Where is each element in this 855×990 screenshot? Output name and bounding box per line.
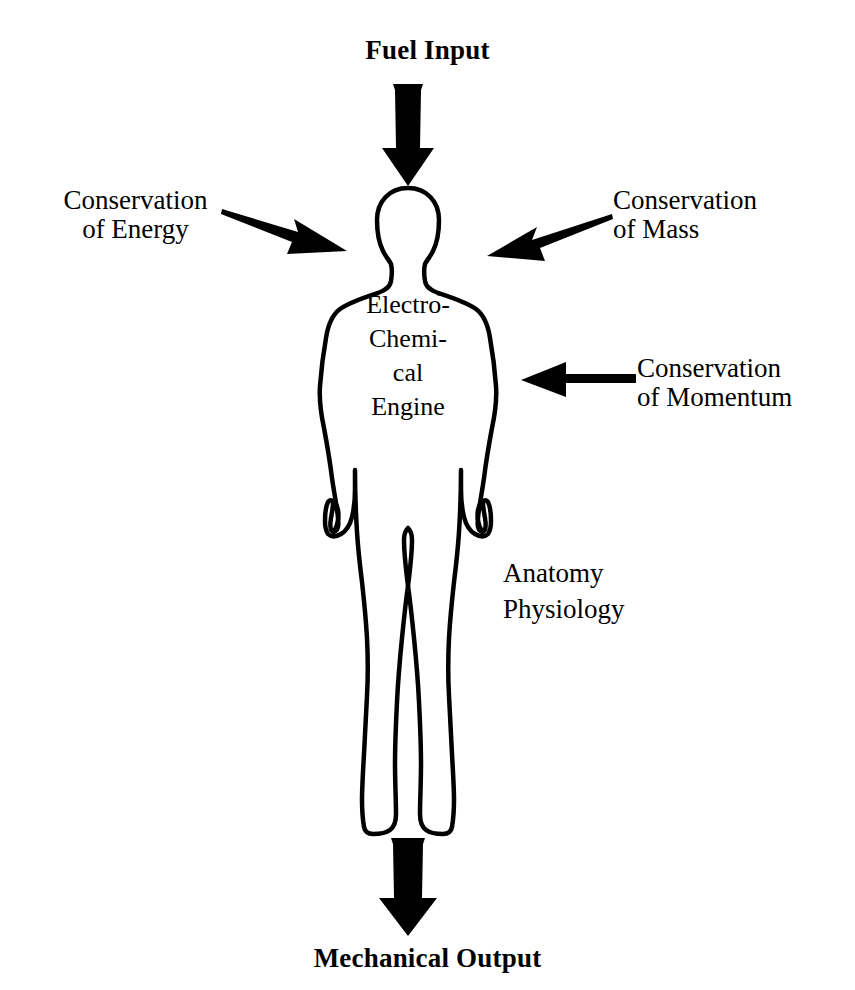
- conservation-of-mass-label: Conservation of Mass: [613, 186, 841, 244]
- electro-chemical-engine-label: Electro- Chemi- cal Engine: [334, 288, 482, 424]
- fuel-input-arrow: [382, 84, 434, 186]
- fuel-input-title: Fuel Input: [0, 36, 855, 65]
- mechanical-output-arrow: [379, 838, 437, 936]
- anatomy-physiology-label: Anatomy Physiology: [503, 556, 703, 627]
- conservation-of-energy-label: Conservation of Energy: [28, 186, 243, 244]
- conservation-of-mass-arrow: [487, 214, 613, 261]
- human-body-outline: [320, 188, 497, 834]
- conservation-of-momentum-label: Conservation of Momentum: [637, 354, 852, 412]
- energy-flow-diagram: Fuel Input Conservation of Energy Conser…: [0, 0, 855, 990]
- diagram-canvas: [0, 0, 855, 990]
- mechanical-output-title: Mechanical Output: [0, 944, 855, 973]
- conservation-of-momentum-arrow: [521, 362, 636, 397]
